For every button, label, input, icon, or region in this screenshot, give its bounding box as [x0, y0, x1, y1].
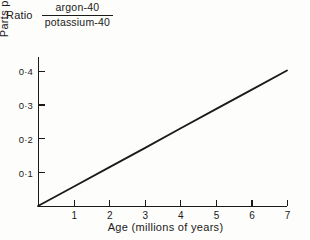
- x-tick-label: 7: [285, 210, 291, 221]
- fraction-denominator: potassium-40: [42, 17, 113, 28]
- x-tick-label: 2: [107, 210, 113, 221]
- chart-figure: Ratio argon-40 potassium-40 0·10·20·30·4…: [0, 0, 310, 240]
- y-tick-label: 0·3: [19, 100, 33, 111]
- y-tick-label: 0·4: [19, 66, 33, 77]
- x-tick-label: 1: [71, 210, 77, 221]
- x-axis-title: Age (millions of years): [38, 221, 293, 233]
- x-tick-label: 5: [214, 210, 220, 221]
- x-tick-label: 6: [249, 210, 255, 221]
- data-series-line: [38, 52, 293, 207]
- y-tick-label: 0·2: [19, 133, 33, 144]
- plot-area: 0·10·20·30·4 1234567: [38, 52, 293, 207]
- ratio-fraction: argon-40 potassium-40: [42, 2, 113, 28]
- y-tick-label: 0·1: [19, 167, 33, 178]
- chart-title: Ratio argon-40 potassium-40: [6, 2, 113, 28]
- y-axis-title: Parts per thousand: [0, 0, 10, 58]
- x-tick-label: 3: [143, 210, 149, 221]
- fraction-numerator: argon-40: [53, 2, 103, 13]
- ratio-label: Ratio: [6, 9, 33, 21]
- x-tick-label: 4: [178, 210, 184, 221]
